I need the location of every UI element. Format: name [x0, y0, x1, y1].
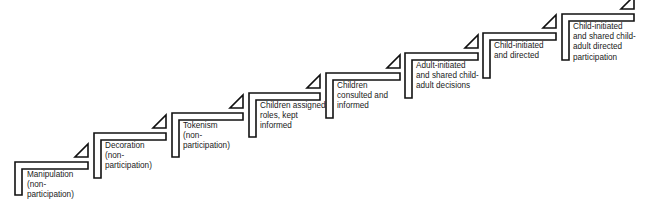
triangle-icon [621, 0, 634, 9]
step-label: Children consulted and informed [337, 81, 388, 112]
triangle-icon [307, 75, 320, 88]
triangle-icon [387, 55, 400, 68]
triangle-icon [230, 95, 243, 108]
step-label: Tokenism (non- participation) [183, 121, 230, 152]
triangle-icon [75, 144, 88, 157]
triangle-icon [543, 15, 556, 28]
step-label: Adult-initiated and shared child- adult … [416, 61, 479, 92]
step-label: Child-initiated and shared child- adult … [573, 22, 636, 63]
step-label: Decoration (non- participation) [105, 141, 152, 172]
step-label: Manipulation (non- participation) [27, 170, 74, 201]
step-label: Children assigned roles, kept informed [260, 101, 326, 132]
triangle-icon [153, 115, 166, 128]
triangle-icon [465, 35, 478, 48]
step-label: Child-initiated and directed [494, 41, 544, 61]
